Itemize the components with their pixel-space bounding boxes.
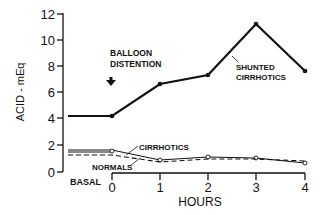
x-tick-4: 4	[301, 180, 308, 195]
shunted-label-line1: SHUNTED	[236, 63, 275, 72]
x-axis	[112, 173, 305, 180]
y-axis	[57, 13, 63, 172]
y-tick-10: 10	[41, 33, 55, 48]
x-tick-0: 0	[108, 180, 115, 195]
down-arrow-icon	[106, 77, 116, 86]
y-tick-6: 6	[48, 85, 55, 100]
x-tick-3: 3	[252, 180, 259, 195]
balloon-label-line1: BALLOON	[110, 48, 152, 58]
normals-label: NORMALS	[92, 163, 133, 172]
cirrhotics-leader-line	[126, 146, 138, 155]
y-tick-2: 2	[48, 138, 55, 153]
shunted-label-line2: CIRRHOTICS	[236, 73, 286, 82]
y-tick-0: 0	[48, 165, 55, 180]
x-tick-labels: 0 1 2 3 4	[108, 180, 308, 195]
basal-label: BASAL	[70, 177, 102, 187]
y-tick-12: 12	[41, 7, 55, 22]
x-tick-2: 2	[204, 180, 211, 195]
y-tick-8: 8	[48, 59, 55, 74]
balloon-label-line2: DISTENTION	[110, 59, 161, 69]
y-axis-label: ACID - mEq	[14, 63, 26, 122]
acid-output-chart: 12 10 8 6 4 2 0 ACID - mEq 0 1 2 3 4 HOU…	[0, 0, 324, 215]
x-axis-label: HOURS	[178, 195, 221, 209]
cirrhotics-label: CIRRHOTICS	[139, 143, 189, 152]
shunted-leader-line	[232, 56, 238, 62]
y-tick-labels: 12 10 8 6 4 2 0	[41, 7, 55, 180]
y-tick-4: 4	[48, 111, 55, 126]
x-tick-1: 1	[156, 180, 163, 195]
